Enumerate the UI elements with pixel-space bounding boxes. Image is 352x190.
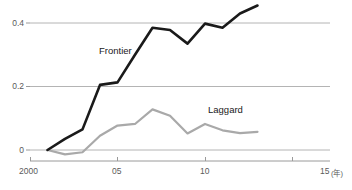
y-axis-tick-marks bbox=[26, 23, 30, 150]
x-axis-unit-label: (年) bbox=[331, 167, 343, 178]
chart-container: 0.4 0.2 0 2000 05 10 15 (年) Frontier Lag… bbox=[0, 0, 352, 190]
x-tick-label-15: 15 bbox=[320, 166, 329, 176]
chart-plot-area bbox=[0, 0, 352, 190]
y-tick-label-0: 0 bbox=[4, 145, 24, 155]
x-tick-label-10: 10 bbox=[200, 166, 209, 176]
series-annotation-frontier: Frontier bbox=[99, 45, 132, 56]
y-tick-label-0.4: 0.4 bbox=[4, 18, 24, 28]
x-tick-label-05: 05 bbox=[112, 166, 121, 176]
series-line-frontier bbox=[48, 6, 258, 150]
series-annotation-laggard: Laggard bbox=[208, 104, 243, 115]
y-tick-label-0.2: 0.2 bbox=[4, 81, 24, 91]
x-axis bbox=[30, 157, 330, 161]
gridlines bbox=[30, 23, 330, 150]
x-tick-label-2000: 2000 bbox=[19, 166, 38, 176]
